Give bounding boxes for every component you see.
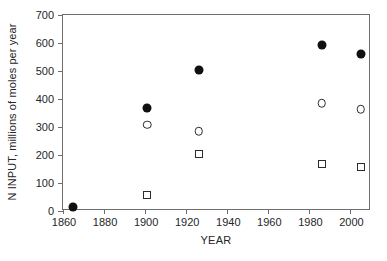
x-tick: 1860 (63, 209, 64, 214)
data-point-open-circle (356, 105, 365, 114)
x-tick-label: 1860 (52, 216, 76, 228)
y-tick: 400 (58, 99, 63, 100)
x-tick: 1960 (268, 209, 269, 214)
y-tick: 200 (58, 155, 63, 156)
y-axis-title-text: N INPUT, millions of moles per year (6, 23, 18, 200)
y-tick-label: 600 (36, 37, 54, 49)
data-point-open-square (195, 150, 203, 158)
y-tick: 300 (58, 127, 63, 128)
data-point-filled-circle (356, 49, 365, 58)
x-tick-label: 1940 (216, 216, 240, 228)
chart-figure: N INPUT, millions of moles per year 0100… (0, 0, 387, 261)
data-point-filled-circle (317, 40, 326, 49)
data-point-open-circle (194, 127, 203, 136)
data-point-open-circle (317, 99, 326, 108)
y-tick: 600 (58, 43, 63, 44)
y-tick: 500 (58, 71, 63, 72)
x-tick-label: 1900 (134, 216, 158, 228)
data-point-open-circle (143, 121, 152, 130)
x-tick: 1900 (145, 209, 146, 214)
x-tick: 2000 (350, 209, 351, 214)
x-tick: 1880 (104, 209, 105, 214)
x-axis-title: YEAR (62, 234, 370, 246)
y-tick: 100 (58, 183, 63, 184)
y-tick-label: 400 (36, 93, 54, 105)
x-tick-label: 1980 (298, 216, 322, 228)
data-point-filled-circle (194, 66, 203, 75)
y-tick-label: 200 (36, 149, 54, 161)
data-point-filled-circle (69, 203, 78, 212)
data-point-filled-circle (143, 103, 152, 112)
y-axis-title: N INPUT, millions of moles per year (4, 14, 20, 210)
plot-area: 0100200300400500600700 18601880190019201… (62, 14, 370, 210)
x-tick: 1940 (227, 209, 228, 214)
x-tick-label: 1920 (175, 216, 199, 228)
data-point-open-square (318, 160, 326, 168)
y-tick-label: 700 (36, 9, 54, 21)
x-tick-label: 1880 (93, 216, 117, 228)
y-tick-label: 300 (36, 121, 54, 133)
x-tick: 1920 (186, 209, 187, 214)
y-tick-label: 100 (36, 177, 54, 189)
y-tick-label: 500 (36, 65, 54, 77)
x-tick: 1980 (309, 209, 310, 214)
x-tick-label: 1960 (257, 216, 281, 228)
data-point-open-square (357, 163, 365, 171)
y-tick: 700 (58, 15, 63, 16)
data-point-open-square (143, 191, 151, 199)
x-tick-label: 2000 (339, 216, 363, 228)
